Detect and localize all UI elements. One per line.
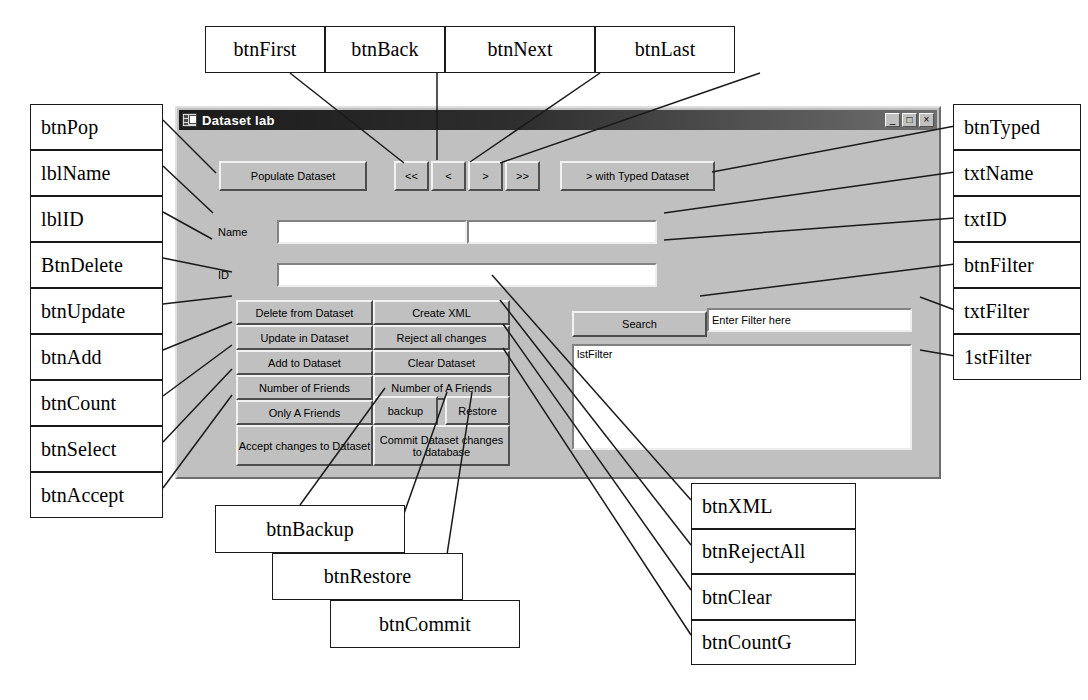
callout-btnUpdate: btnUpdate xyxy=(30,288,163,334)
callout-lstFilter: 1stFilter xyxy=(953,334,1081,380)
figure-root: Dataset lab _ □ × Populate Dataset << < … xyxy=(0,0,1088,700)
callout-btnRejectAll: btnRejectAll xyxy=(691,529,856,574)
callout-btnCommit: btnCommit xyxy=(330,600,520,648)
callout-txtFilter: txtFilter xyxy=(953,288,1081,334)
callout-btnBackup: btnBackup xyxy=(215,505,405,553)
callout-btnCountG: btnCountG xyxy=(691,620,856,665)
callout-btnClear: btnClear xyxy=(691,574,856,620)
callout-btnFirst: btnFirst xyxy=(205,26,325,73)
callout-btnCount: btnCount xyxy=(30,380,163,426)
callout-txtID: txtID xyxy=(953,196,1081,242)
callout-btnRestore: btnRestore xyxy=(272,553,463,600)
callout-BtnDelete: BtnDelete xyxy=(30,242,163,288)
callout-btnSelect: btnSelect xyxy=(30,426,163,472)
callout-btnBack: btnBack xyxy=(325,26,445,73)
callout-lblName: lblName xyxy=(30,150,163,196)
callout-btnPop: btnPop xyxy=(30,104,163,150)
callout-btnLast: btnLast xyxy=(595,26,735,73)
callout-btnXML: btnXML xyxy=(691,483,856,529)
callout-txtName: txtName xyxy=(953,150,1081,196)
callout-btnTyped: btnTyped xyxy=(953,104,1081,150)
callout-btnFilter: btnFilter xyxy=(953,242,1081,288)
callout-lblID: lblID xyxy=(30,196,163,242)
leader-lines xyxy=(0,0,1088,700)
callout-btnAdd: btnAdd xyxy=(30,334,163,380)
callout-btnNext: btnNext xyxy=(445,26,595,73)
callout-btnAccept: btnAccept xyxy=(30,472,163,518)
